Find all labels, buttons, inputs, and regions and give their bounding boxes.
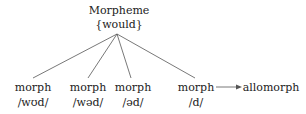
branch-line-1 [33, 34, 117, 78]
morph-label-2: morph [70, 81, 106, 94]
morph-form-4: /d/ [189, 96, 203, 109]
morph-label-3: morph [115, 81, 151, 94]
morph-label-4: morph [178, 81, 214, 94]
branch-line-2 [88, 34, 117, 78]
morpheme-value: {would} [95, 18, 143, 31]
morph-form-1: /wʊd/ [18, 96, 49, 109]
morph-form-2: /wəd/ [73, 96, 103, 109]
morph-form-3: /əd/ [123, 96, 144, 109]
morpheme-label: Morpheme [89, 4, 150, 17]
allomorph-label: allomorph [243, 81, 300, 94]
morph-label-1: morph [15, 81, 51, 94]
arrow-head-icon [236, 85, 242, 90]
